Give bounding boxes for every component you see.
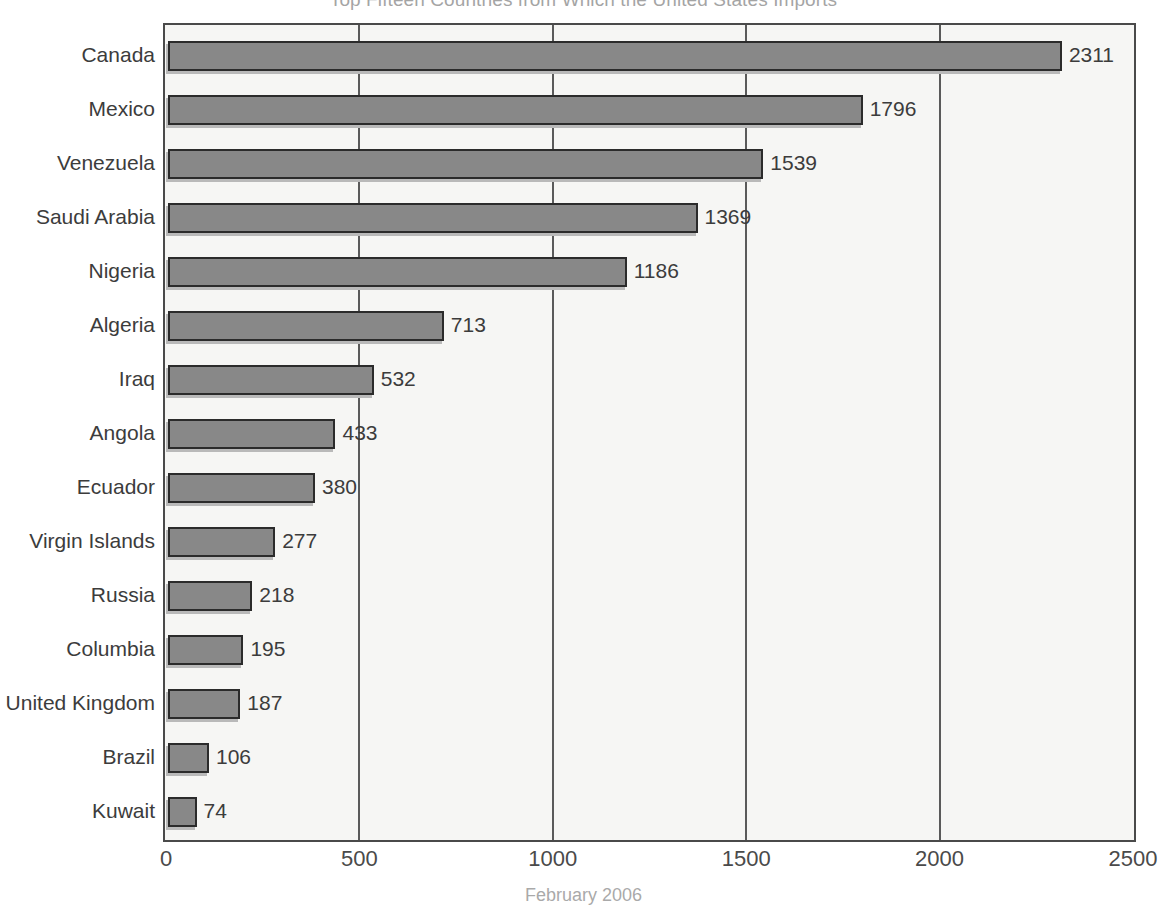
bar-row: 1369 [165, 192, 1134, 246]
y-axis-category-labels: CanadaMexicoVenezuelaSaudi ArabiaNigeria… [0, 23, 155, 842]
bar-row: 1186 [165, 246, 1134, 300]
bar-value-label: 433 [342, 418, 377, 448]
bar[interactable] [168, 743, 209, 773]
bar-row: 532 [165, 354, 1134, 408]
x-tick-1000: 1000 [528, 846, 577, 872]
bar[interactable] [168, 203, 698, 233]
category-label-venezuela: Venezuela [0, 136, 155, 190]
x-tick-0: 0 [160, 846, 172, 872]
category-label-united-kingdom: United Kingdom [0, 676, 155, 730]
bar-value-label: 195 [250, 634, 285, 664]
x-tick-2000: 2000 [915, 846, 964, 872]
bar-value-label: 277 [282, 526, 317, 556]
bar-row: 74 [165, 786, 1134, 840]
category-label-nigeria: Nigeria [0, 244, 155, 298]
bar[interactable] [168, 311, 444, 341]
bar-row: 380 [165, 462, 1134, 516]
bar-row: 218 [165, 570, 1134, 624]
category-label-mexico: Mexico [0, 82, 155, 136]
bar[interactable] [168, 419, 335, 449]
bar[interactable] [168, 149, 763, 179]
bar-row: 195 [165, 624, 1134, 678]
category-label-angola: Angola [0, 406, 155, 460]
bar[interactable] [168, 473, 315, 503]
category-label-ecuador: Ecuador [0, 460, 155, 514]
bar[interactable] [168, 527, 275, 557]
bar-row: 713 [165, 300, 1134, 354]
bar-value-label: 74 [204, 796, 227, 826]
x-tick-2500: 2500 [1109, 846, 1158, 872]
bar[interactable] [168, 365, 374, 395]
bar-value-label: 713 [451, 310, 486, 340]
category-label-algeria: Algeria [0, 298, 155, 352]
bar[interactable] [168, 581, 252, 611]
bar-value-label: 1186 [634, 256, 679, 286]
bar-value-label: 380 [322, 472, 357, 502]
category-label-kuwait: Kuwait [0, 784, 155, 838]
bar-value-label: 1539 [770, 148, 817, 178]
bar[interactable] [168, 635, 243, 665]
x-tick-1500: 1500 [722, 846, 771, 872]
category-label-saudi-arabia: Saudi Arabia [0, 190, 155, 244]
bar[interactable] [168, 257, 627, 287]
bar[interactable] [168, 41, 1062, 71]
plot-inner: 2311179615391369118671353243338027721819… [165, 25, 1134, 840]
category-label-columbia: Columbia [0, 622, 155, 676]
category-label-brazil: Brazil [0, 730, 155, 784]
bar-row: 187 [165, 678, 1134, 732]
category-label-iraq: Iraq [0, 352, 155, 406]
bar-value-label: 106 [216, 742, 251, 772]
bar-value-label: 532 [381, 364, 416, 394]
bar[interactable] [168, 95, 863, 125]
bar-value-label: 1796 [870, 94, 917, 124]
bar-row: 433 [165, 408, 1134, 462]
category-label-canada: Canada [0, 28, 155, 82]
bar-row: 106 [165, 732, 1134, 786]
chart-caption: February 2006 [0, 885, 1167, 906]
category-label-virgin-islands: Virgin Islands [0, 514, 155, 568]
category-label-russia: Russia [0, 568, 155, 622]
plot-area: 2311179615391369118671353243338027721819… [163, 23, 1136, 842]
bar-row: 1796 [165, 84, 1134, 138]
bar-row: 277 [165, 516, 1134, 570]
bar[interactable] [168, 797, 197, 827]
bar-row: 2311 [165, 30, 1134, 84]
x-axis-tick-labels: 05001000150020002500 [163, 846, 1136, 878]
x-tick-500: 500 [341, 846, 378, 872]
chart-title: Top Fifteen Countries from Which the Uni… [0, 0, 1167, 11]
bar-value-label: 1369 [705, 202, 752, 232]
bar-value-label: 2311 [1069, 40, 1114, 70]
bar-value-label: 218 [259, 580, 294, 610]
bar[interactable] [168, 689, 240, 719]
bar-row: 1539 [165, 138, 1134, 192]
bar-value-label: 187 [247, 688, 282, 718]
